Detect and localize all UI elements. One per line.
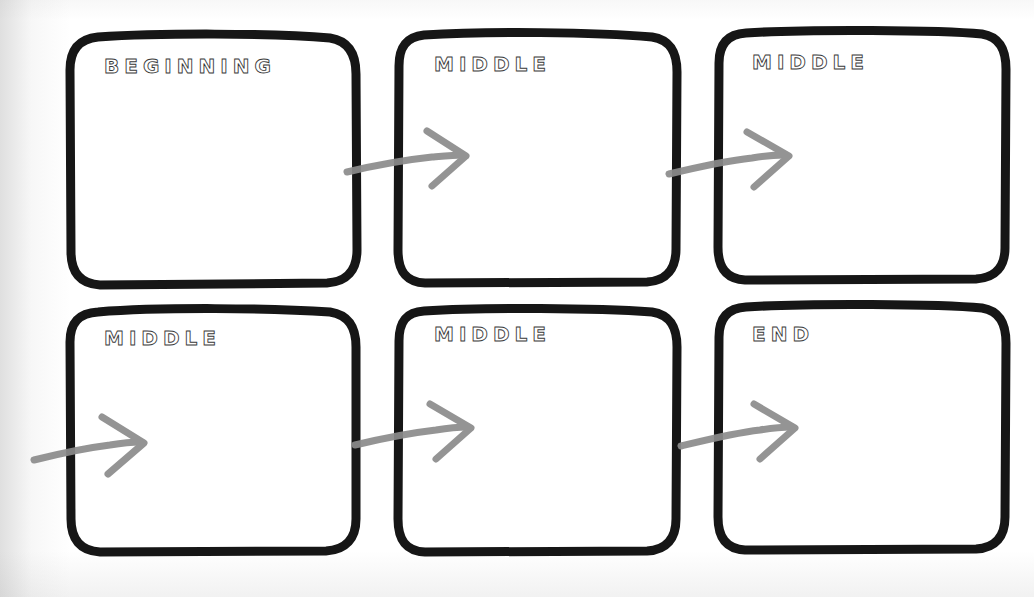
cell-content-area-6[interactable] xyxy=(728,348,996,541)
cell-content-area-2[interactable] xyxy=(408,78,667,274)
cell-label-1: BEGINNING xyxy=(104,54,276,78)
cell-content-area-1[interactable] xyxy=(80,80,346,276)
cell-label-3: MIDDLE xyxy=(752,50,869,74)
cell-label-6: END xyxy=(752,322,814,346)
cell-content-area-3[interactable] xyxy=(728,76,996,271)
cell-label-2: MIDDLE xyxy=(434,52,551,76)
cell-content-area-5[interactable] xyxy=(408,350,667,543)
worksheet-page: BEGINNING MIDDLE MIDDLE MIDDLE MIDDLE EN… xyxy=(0,0,1034,597)
cell-content-area-4[interactable] xyxy=(80,352,346,543)
cell-label-4: MIDDLE xyxy=(104,326,221,350)
cell-label-5: MIDDLE xyxy=(434,322,551,346)
